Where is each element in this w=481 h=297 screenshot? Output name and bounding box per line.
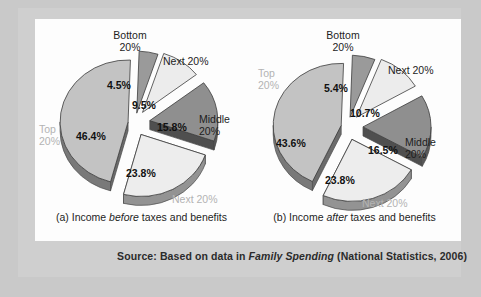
caption-before-italic: before [109, 211, 139, 223]
slice-value-middle-after: 16.5% [368, 144, 398, 156]
slice-label-middle-after: Middle 20% [405, 136, 436, 160]
slice-label-next-upper-before-line1: Next 20% [163, 55, 209, 67]
slice-label-top-before-line1: Top [39, 123, 60, 135]
slice-value-top-before: 46.4% [76, 130, 106, 142]
slice-label-middle-after-line1: Middle [405, 136, 436, 148]
slice-value-top-after: 43.6% [276, 137, 306, 149]
slice-label-top-after-line2: 20% [258, 79, 279, 91]
slice-label-next-lower-before-line1: Next 20% [172, 193, 218, 205]
slice-value-bottom-before: 4.5% [107, 79, 131, 91]
source-note-prefix: Source: Based on data in [117, 250, 248, 262]
slice-label-top-after-line1: Top [258, 67, 279, 79]
slice-label-middle-after-line2: 20% [405, 148, 436, 160]
slice-label-middle-before-line1: Middle [199, 113, 230, 125]
slice-label-next-lower-after: Next 20% [362, 197, 408, 209]
caption-after-suffix: taxes and benefits [347, 211, 435, 223]
pie-chart-before: Top 20% Bottom 20% Next 20% Middle 20% N… [35, 19, 248, 241]
slice-value-nextlower-before: 23.8% [126, 167, 156, 179]
source-note-italic: Family Spending [249, 250, 335, 262]
caption-after-prefix: (b) Income [273, 211, 326, 223]
caption-before: (a) Income before taxes and benefits [35, 211, 248, 223]
slice-value-nextupper-after: 10.7% [350, 107, 380, 119]
slice-label-bottom-after-line1: Bottom [300, 29, 386, 41]
slice-value-middle-before: 15.8% [157, 121, 187, 133]
slice-label-top-before-line2: 20% [39, 135, 60, 147]
slice-label-middle-before-line2: 20% [199, 125, 230, 137]
slice-value-nextlower-after: 23.8% [325, 174, 355, 186]
caption-after: (b) Income after taxes and benefits [248, 211, 461, 223]
slice-label-next-upper-after: Next 20% [388, 64, 434, 76]
slice-label-next-lower-after-line1: Next 20% [362, 197, 408, 209]
slice-value-bottom-after: 5.4% [324, 82, 348, 94]
slice-label-top-before: Top 20% [39, 123, 60, 147]
slice-label-top-after: Top 20% [258, 67, 279, 91]
caption-before-prefix: (a) Income [56, 211, 109, 223]
slice-label-bottom-after: Bottom 20% [300, 29, 386, 53]
caption-after-italic: after [326, 211, 347, 223]
slice-label-bottom-before-line1: Bottom [87, 29, 173, 41]
source-note: Source: Based on data in Family Spending… [117, 250, 467, 262]
slice-label-bottom-before-line2: 20% [87, 41, 173, 53]
source-note-suffix: (National Statistics, 2006) [334, 250, 467, 262]
figure-container: Top 20% Bottom 20% Next 20% Middle 20% N… [0, 0, 481, 297]
caption-before-suffix: taxes and benefits [139, 211, 227, 223]
pie-chart-after: Top 20% Bottom 20% Next 20% Middle 20% N… [248, 19, 461, 241]
slice-value-nextupper-before: 9.5% [132, 99, 156, 111]
slice-label-next-upper-before: Next 20% [163, 55, 209, 67]
slice-label-bottom-before: Bottom 20% [87, 29, 173, 53]
slice-label-middle-before: Middle 20% [199, 113, 230, 137]
slice-label-bottom-after-line2: 20% [300, 41, 386, 53]
slice-label-next-upper-after-line1: Next 20% [388, 64, 434, 76]
slice-label-next-lower-before: Next 20% [172, 193, 218, 205]
